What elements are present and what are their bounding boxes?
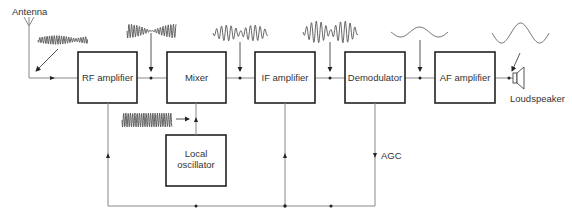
agc-label: AGC [381, 150, 402, 161]
local-oscillator-label-1: Local [185, 148, 208, 159]
rf-signal-arrow [36, 49, 58, 71]
rf-amplifier-block: RF amplifier [78, 52, 137, 103]
local-oscillator-label-2: oscillator [177, 159, 215, 170]
loudspeaker-icon [513, 67, 524, 89]
mixer-block: Mixer [167, 52, 226, 103]
audio-output-arrow [512, 53, 520, 71]
demodulator-label: Demodulator [348, 72, 402, 83]
local-oscillator-waveform [122, 113, 172, 127]
mixer-label: Mixer [185, 72, 208, 83]
mixer-input-waveform [127, 24, 176, 38]
if-amplifier-block: IF amplifier [255, 52, 315, 103]
antenna-label: Antenna [12, 6, 48, 17]
af-amplifier-block: AF amplifier [435, 52, 495, 103]
af-amplifier-label: AF amplifier [440, 72, 491, 83]
receiver-block-diagram: Antenna RF amplifier Mixer IF amplifier … [0, 0, 572, 224]
if-amplifier-label: IF amplifier [262, 72, 309, 83]
if-input-waveform [213, 25, 268, 41]
af-input-waveform [391, 27, 448, 37]
rf-signal-waveform [38, 36, 88, 45]
local-oscillator-block: Local oscillator [166, 135, 226, 186]
loudspeaker-label: Loudspeaker [510, 93, 565, 104]
antenna-icon [24, 17, 34, 78]
audio-output-waveform [492, 23, 549, 43]
lo-to-mixer-path [176, 103, 198, 135]
rf-amplifier-label: RF amplifier [82, 72, 133, 83]
demod-input-waveform [303, 21, 358, 43]
demodulator-block: Demodulator [345, 52, 405, 103]
